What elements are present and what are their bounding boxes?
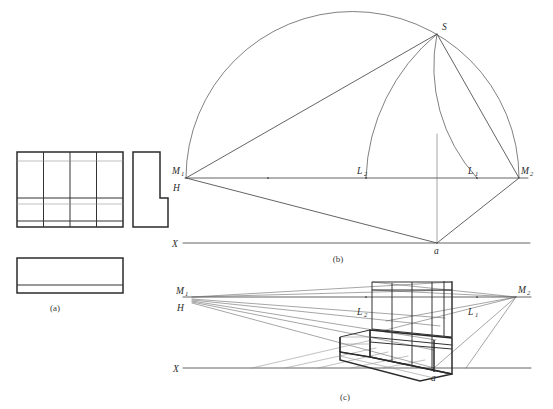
caption-b: (b): [333, 254, 344, 264]
ray-c-l-mid3: [192, 301, 436, 340]
label-l2-c: L: [356, 307, 362, 317]
technical-drawing-svg: (a): [0, 0, 553, 409]
ray-c-l-top2: [192, 290, 452, 297]
label-m2-c: M: [517, 285, 527, 295]
label-m1-b: M: [171, 166, 181, 176]
label-l2-sub-b: 2: [364, 170, 368, 177]
label-h-c: H: [176, 303, 185, 313]
label-s-b: S: [442, 22, 447, 32]
label-m2-sub-c: 2: [527, 289, 531, 296]
tick-point-l2-c: [365, 296, 367, 298]
panel-a-orthographic-views: (a): [17, 152, 168, 313]
label-l1-sub-c: 1: [475, 311, 478, 318]
tick-point-l1-b: [476, 177, 478, 179]
label-a-c: a: [431, 373, 436, 383]
label-h-b: H: [172, 183, 181, 193]
ray-m1-to-s: [186, 34, 437, 178]
label-x-c: X: [172, 364, 180, 374]
arc-s-to-l1: [434, 34, 477, 178]
rays-from-left-vanishing-point: [192, 282, 452, 368]
label-m1-sub-c: 1: [185, 290, 188, 297]
label-m1-sub-b: 1: [181, 170, 184, 177]
ray-c-l-mid1: [192, 299, 445, 318]
tick-point-l2-b: [365, 177, 367, 179]
arc-s-to-l2: [366, 34, 437, 178]
ray-c-r-mid1: [386, 297, 516, 321]
tick-point-l1-c: [476, 296, 478, 298]
label-l1-c: L: [467, 307, 473, 317]
lower-block-h2: [370, 342, 452, 349]
side-elevation-l-outline: [133, 152, 168, 227]
panel-b-measuring-point-construction: M 1 H L 2 L 1 M 2 S X a (b): [171, 12, 534, 264]
main-semicircle: [186, 12, 519, 178]
label-a-b: a: [434, 246, 439, 256]
plan-view-outline: [17, 258, 123, 293]
lower-block-h1: [370, 337, 452, 345]
label-m2-b: M: [520, 166, 530, 176]
label-x-b: X: [171, 239, 179, 249]
label-l1-b: L: [467, 166, 473, 176]
ray-m2-to-s: [437, 34, 519, 178]
ray-m2-to-a: [437, 178, 519, 243]
figure-page: (a): [0, 0, 553, 409]
ray-m1-to-a: [186, 178, 437, 243]
caption-c: (c): [340, 392, 350, 402]
tick-horizon-b-1: [267, 177, 269, 179]
label-l2-b: L: [356, 166, 362, 176]
side-elevation-view: [133, 152, 168, 227]
label-l1-sub-b: 1: [475, 170, 478, 177]
lower-block-front-face: [370, 330, 452, 374]
ray-c-l-low1: [192, 302, 434, 350]
perspective-upper-block: [372, 281, 452, 337]
front-elevation-view: [17, 152, 123, 227]
label-m1-c: M: [175, 286, 185, 296]
caption-a: (a): [50, 303, 60, 313]
label-m2-sub-b: 2: [530, 170, 534, 177]
ground-line-c-4: [351, 356, 408, 368]
panel-c-perspective-drawing: M 1 H L 2 L 1 M 2 X a (c): [172, 281, 531, 402]
plan-view: [17, 258, 123, 293]
